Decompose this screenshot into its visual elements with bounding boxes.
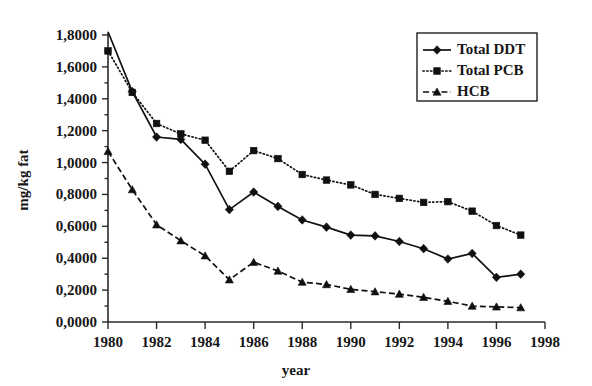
- data-point-marker: [347, 182, 354, 189]
- data-point-marker: [274, 202, 282, 211]
- data-point-marker: [420, 244, 428, 253]
- data-point-marker: [434, 68, 441, 75]
- data-point-marker: [129, 89, 136, 96]
- data-point-marker: [201, 252, 209, 259]
- x-axis-tick-group: 1980198219841986198819901992199419961998: [93, 322, 560, 350]
- data-point-marker: [493, 222, 500, 229]
- data-point-marker: [226, 168, 233, 175]
- x-tick-label: 1996: [481, 334, 512, 350]
- data-point-marker: [275, 155, 282, 162]
- data-point-marker: [445, 198, 452, 205]
- data-point-marker: [396, 195, 403, 202]
- x-tick-label: 1980: [93, 334, 123, 350]
- data-point-marker: [178, 131, 185, 138]
- data-point-marker: [299, 171, 306, 178]
- legend-label: Total DDT: [457, 41, 525, 57]
- x-tick-label: 1994: [433, 334, 464, 350]
- series-line: [108, 151, 521, 307]
- data-point-marker: [469, 208, 476, 215]
- y-tick-label: 1,6000: [56, 59, 97, 75]
- data-point-marker: [298, 216, 306, 225]
- x-tick-label: 1984: [190, 334, 221, 350]
- line-chart: 0,00000,20000,40000,60000,80001,00001,20…: [0, 0, 592, 386]
- y-tick-label: 0,0000: [56, 314, 97, 330]
- x-tick-label: 1986: [239, 334, 270, 350]
- data-point-marker: [323, 281, 331, 288]
- y-tick-label: 1,0000: [56, 155, 97, 171]
- data-point-marker: [250, 147, 257, 154]
- x-axis-title: year: [282, 362, 311, 378]
- y-tick-label: 0,8000: [56, 186, 97, 202]
- data-point-marker: [347, 231, 355, 240]
- legend-label: Total PCB: [457, 62, 524, 78]
- data-point-marker: [420, 199, 427, 206]
- y-tick-label: 1,8000: [56, 27, 97, 43]
- data-point-marker: [517, 232, 524, 239]
- data-point-marker: [322, 223, 330, 232]
- chart-container: 0,00000,20000,40000,60000,80001,00001,20…: [0, 0, 592, 386]
- x-tick-label: 1990: [336, 334, 366, 350]
- data-point-marker: [517, 270, 525, 279]
- legend-label: HCB: [457, 83, 490, 99]
- data-point-marker: [250, 258, 258, 265]
- y-tick-label: 0,6000: [56, 218, 97, 234]
- data-point-marker: [105, 48, 112, 55]
- data-point-marker: [177, 237, 185, 244]
- data-point-marker: [323, 177, 330, 184]
- y-tick-label: 1,2000: [56, 123, 97, 139]
- x-tick-label: 1988: [287, 334, 317, 350]
- y-axis-tick-group: 0,00000,20000,40000,60000,80001,00001,20…: [56, 27, 108, 330]
- data-point-marker: [202, 137, 209, 144]
- x-tick-label: 1982: [142, 334, 172, 350]
- data-point-marker: [395, 237, 403, 246]
- data-point-marker: [104, 147, 112, 154]
- data-point-marker: [444, 255, 452, 264]
- x-tick-label: 1998: [530, 334, 560, 350]
- y-tick-label: 1,4000: [56, 91, 97, 107]
- data-point-marker: [371, 232, 379, 241]
- data-point-marker: [153, 120, 160, 127]
- data-point-marker: [372, 191, 379, 198]
- data-point-marker: [152, 133, 160, 142]
- y-tick-label: 0,2000: [56, 282, 97, 298]
- y-axis-title: mg/kg fat: [15, 149, 31, 210]
- x-tick-label: 1992: [384, 334, 414, 350]
- y-tick-label: 0,4000: [56, 250, 97, 266]
- legend: Total DDTTotal PCBHCB: [417, 33, 537, 101]
- series-hcb: [104, 147, 525, 310]
